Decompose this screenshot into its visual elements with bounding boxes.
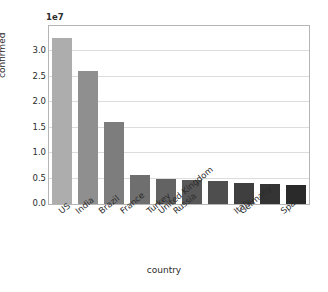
y-tick-label: 0.0 [6,199,46,208]
bar [208,181,228,204]
y-tick-label: 3.0 [6,46,46,55]
bar-chart-figure: 1e7 confirmed 0.00.51.01.52.02.53.0 USIn… [0,0,328,292]
bar [52,38,72,204]
x-axis-title: country [0,266,328,275]
y-tick-label: 1.5 [6,123,46,132]
plot-area [48,25,310,205]
bar-series [49,26,309,204]
bar [104,122,124,204]
y-axis-offset-text: 1e7 [46,13,64,22]
y-tick-label: 2.0 [6,97,46,106]
y-tick-label: 2.5 [6,72,46,81]
bar [78,71,98,204]
y-tick-label: 0.5 [6,174,46,183]
y-tick-label: 1.0 [6,148,46,157]
